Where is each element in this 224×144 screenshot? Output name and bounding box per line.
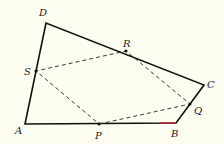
label-b: B (170, 128, 178, 139)
quadrilateral-outline (25, 23, 204, 124)
quadrilateral-diagram: A B C D P Q R S (0, 0, 224, 144)
label-q: Q (194, 105, 202, 116)
label-s: S (24, 66, 31, 77)
parallelogram-outline (36, 51, 190, 124)
point-r (125, 50, 128, 53)
midpoint-parallelogram-pqrs (36, 51, 190, 124)
label-r: R (122, 38, 131, 49)
point-s (35, 70, 38, 73)
quadrilateral-abcd (25, 23, 204, 124)
point-p (98, 123, 101, 126)
point-q (189, 103, 192, 106)
label-p: P (94, 130, 102, 141)
midpoint-dots (35, 50, 192, 126)
label-a: A (14, 125, 22, 136)
label-c: C (207, 79, 215, 90)
label-d: D (38, 7, 47, 18)
